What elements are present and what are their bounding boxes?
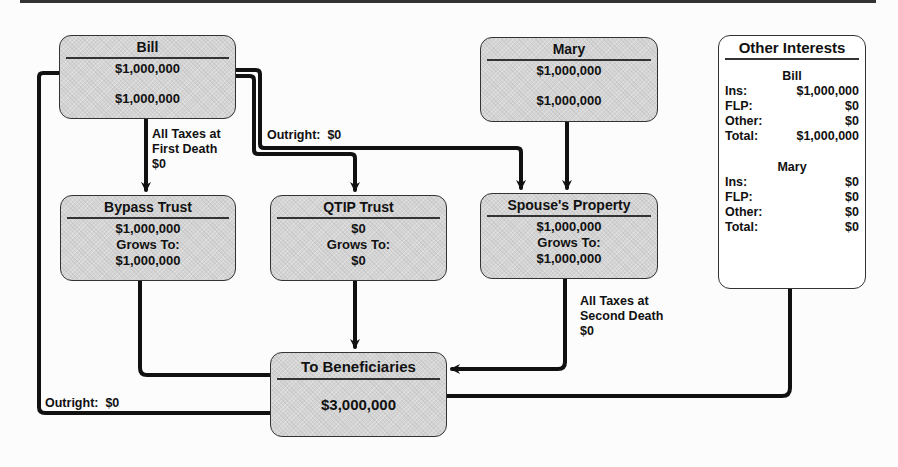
beneficiaries-box: To Beneficiaries $3,000,000 (270, 352, 447, 437)
other-bill-flp-row: FLP:$0 (725, 99, 859, 114)
spouses-property-grows-label: Grows To: (481, 235, 657, 251)
divider (66, 57, 229, 59)
mary-box: Mary $1,000,000 $1,000,000 (480, 37, 658, 122)
bill-value-1: $1,000,000 (60, 61, 235, 77)
divider (277, 378, 440, 380)
bypass-trust-grows-to: $1,000,000 (61, 253, 235, 269)
label-taxes-first-death: All Taxes at First Death $0 (152, 127, 221, 172)
row-value: $1,000,000 (796, 129, 859, 144)
other-bill-total-row: Total:$1,000,000 (725, 129, 859, 144)
mary-title: Mary (481, 38, 657, 57)
other-mary-total-row: Total:$0 (725, 220, 859, 235)
divider (487, 215, 651, 217)
mary-value-2: $1,000,000 (481, 93, 657, 109)
qtip-trust-box: QTIP Trust $0 Grows To: $0 (270, 195, 447, 281)
row-label: FLP: (725, 190, 753, 205)
row-value: $0 (845, 99, 859, 114)
beneficiaries-title: To Beneficiaries (271, 353, 446, 375)
other-mary-other-row: Other:$0 (725, 205, 859, 220)
spouses-property-box: Spouse's Property $1,000,000 Grows To: $… (480, 193, 658, 279)
divider (487, 59, 651, 61)
qtip-trust-grows-to: $0 (271, 253, 446, 269)
qtip-trust-title: QTIP Trust (271, 196, 446, 215)
divider (725, 58, 859, 60)
bypass-trust-amount: $1,000,000 (61, 221, 235, 237)
label-outright-top: Outright: $0 (267, 128, 341, 143)
bypass-trust-title: Bypass Trust (61, 196, 235, 215)
bill-box: Bill $1,000,000 $1,000,000 (59, 35, 236, 119)
arrow-spouse-to-beneficiaries (452, 278, 565, 369)
qtip-trust-grows-label: Grows To: (271, 237, 446, 253)
label-taxes-second-death: All Taxes at Second Death $0 (580, 294, 663, 339)
label-outright-bottom: Outright: $0 (45, 396, 119, 411)
bypass-trust-grows-label: Grows To: (61, 237, 235, 253)
bill-value-2: $1,000,000 (60, 91, 235, 107)
row-label: Total: (725, 220, 758, 235)
bypass-trust-box: Bypass Trust $1,000,000 Grows To: $1,000… (60, 195, 236, 281)
row-label: Total: (725, 129, 758, 144)
row-label: Ins: (725, 84, 747, 99)
mary-value-1: $1,000,000 (481, 63, 657, 79)
other-bill-ins-row: Ins:$1,000,000 (725, 84, 859, 99)
qtip-trust-amount: $0 (271, 221, 446, 237)
line-bypass-to-beneficiaries (140, 280, 270, 375)
row-label: Other: (725, 205, 763, 220)
divider (277, 217, 440, 219)
other-mary-flp-row: FLP:$0 (725, 190, 859, 205)
other-bill-heading: Bill (725, 69, 859, 84)
row-label: Other: (725, 114, 763, 129)
spouses-property-grows-to: $1,000,000 (481, 251, 657, 267)
other-interests-title: Other Interests (725, 36, 859, 55)
beneficiaries-amount: $3,000,000 (271, 397, 446, 413)
row-value: $0 (845, 175, 859, 190)
row-value: $0 (845, 220, 859, 235)
row-label: Ins: (725, 175, 747, 190)
bill-title: Bill (60, 36, 235, 55)
other-bill-other-row: Other:$0 (725, 114, 859, 129)
row-value: $0 (845, 114, 859, 129)
row-value: $1,000,000 (796, 84, 859, 99)
divider (67, 217, 229, 219)
row-value: $0 (845, 190, 859, 205)
spouses-property-amount: $1,000,000 (481, 219, 657, 235)
spouses-property-title: Spouse's Property (481, 194, 657, 213)
other-mary-heading: Mary (725, 160, 859, 175)
row-value: $0 (845, 205, 859, 220)
other-interests-box: Other Interests Bill Ins:$1,000,000 FLP:… (718, 35, 866, 289)
other-mary-ins-row: Ins:$0 (725, 175, 859, 190)
row-label: FLP: (725, 99, 753, 114)
